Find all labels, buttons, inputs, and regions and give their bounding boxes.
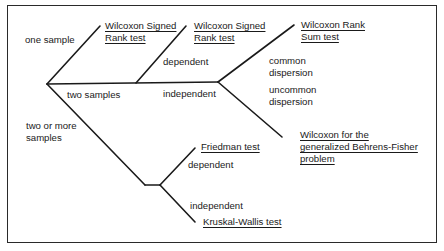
label-two-or-more-samples: two or more samples: [26, 120, 77, 144]
test-kruskal-wallis: Kruskal-Wallis test: [203, 216, 282, 228]
test-line: Wilcoxon Signed: [105, 20, 176, 32]
label-line: common: [269, 55, 313, 67]
label-one-sample: one sample: [25, 34, 75, 46]
label-independent-many: independent: [190, 200, 243, 212]
test-line: Wilcoxon Signed: [194, 20, 265, 32]
label-uncommon-dispersion: uncommon dispersion: [269, 84, 316, 108]
label-line: uncommon: [269, 84, 316, 96]
test-line: problem: [300, 153, 418, 165]
test-line: Wilcoxon for the: [300, 129, 418, 141]
label-dependent-two: dependent: [163, 56, 208, 68]
test-friedman: Friedman test: [201, 141, 260, 153]
test-line: Rank test: [105, 32, 176, 44]
label-two-samples: two samples: [67, 89, 120, 101]
test-wilcoxon-behrens-fisher: Wilcoxon for the generalized Behrens-Fis…: [300, 129, 418, 165]
label-independent-two: independent: [163, 88, 216, 100]
label-line: samples: [26, 132, 77, 144]
test-wilcoxon-rank-sum: Wilcoxon Rank Sum test: [301, 19, 365, 43]
test-wilcoxon-signed-rank-two-samples: Wilcoxon Signed Rank test: [194, 20, 265, 44]
label-common-dispersion: common dispersion: [269, 55, 313, 79]
test-line: Wilcoxon Rank: [301, 19, 365, 31]
label-line: dispersion: [269, 96, 316, 108]
test-line: Rank test: [194, 32, 265, 44]
edge-two-samples: [47, 82, 218, 84]
label-line: two or more: [26, 120, 77, 132]
label-dependent-many: dependent: [188, 159, 233, 171]
test-wilcoxon-signed-rank-one-sample: Wilcoxon Signed Rank test: [105, 20, 176, 44]
test-line: Sum test: [301, 31, 365, 43]
test-line: generalized Behrens-Fisher: [300, 141, 418, 153]
label-line: dispersion: [269, 67, 313, 79]
